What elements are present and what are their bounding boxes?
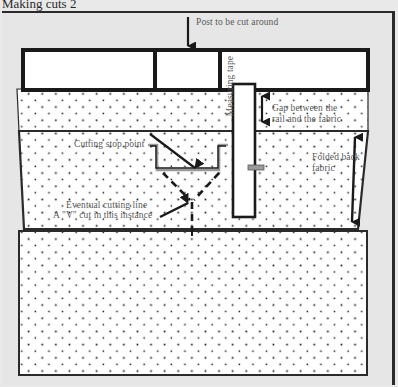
label-post-to-cut-around: Post to be cut around <box>196 17 278 28</box>
label-folded-back-fabric: Folded back fabric <box>312 152 370 174</box>
post-to-cut-around <box>155 50 220 90</box>
label-cutting-stop-point: Cutting stop point <box>74 139 144 150</box>
rail-structure <box>23 50 368 90</box>
rail-segment-left <box>23 50 155 90</box>
measuring-tape-marker <box>248 165 264 170</box>
label-gap-between-rail-and-fabric: Gap between the rail and the fabric <box>272 103 344 125</box>
label-v-cut-instance: A "V" cut in this instance <box>53 210 152 221</box>
figure-page: Making cuts 2 <box>0 0 398 387</box>
label-measuring-tape: Measuring tape <box>225 42 236 130</box>
diagram-canvas <box>0 0 398 387</box>
fabric-main-body <box>19 231 367 375</box>
